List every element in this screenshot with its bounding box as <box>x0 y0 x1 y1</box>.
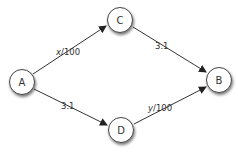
edge-c-to-b <box>133 27 206 72</box>
edge-label-c-b: 3.1 <box>155 41 169 51</box>
node-c: C <box>108 8 133 33</box>
edge-label-a-c: x/100 <box>55 47 80 57</box>
node-d-label: D <box>117 125 125 136</box>
node-c-label: C <box>117 15 124 26</box>
node-d: D <box>109 118 134 143</box>
edge-label-d-b: y/100 <box>147 103 172 113</box>
network-diagram: x/100 3.1 3.1 y/100 A C B D <box>0 0 238 156</box>
edge-label-a-d: 3.1 <box>61 101 75 111</box>
node-b: B <box>207 68 232 93</box>
node-a-label: A <box>19 77 26 88</box>
node-b-label: B <box>216 75 223 86</box>
node-a: A <box>10 70 35 95</box>
